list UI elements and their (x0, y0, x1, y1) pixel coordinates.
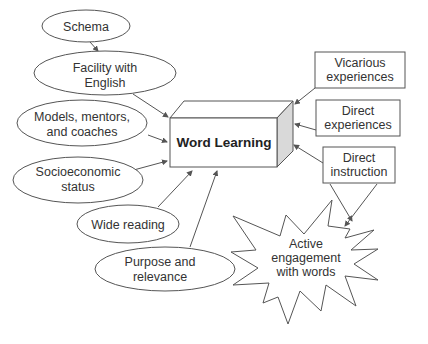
svg-text:Schema: Schema (63, 20, 109, 34)
svg-text:Direct: Direct (343, 151, 376, 165)
svg-text:with words: with words (275, 265, 335, 279)
factor-models-mentors-coaches: Models, mentors, and coaches (17, 100, 147, 146)
svg-text:status: status (61, 180, 94, 194)
svg-text:engagement: engagement (271, 251, 341, 265)
factor-purpose-and-relevance: Purpose and relevance (95, 247, 235, 291)
svg-text:and coaches: and coaches (47, 125, 118, 139)
svg-text:English: English (85, 76, 126, 90)
svg-text:experiences: experiences (326, 70, 393, 84)
svg-text:Facility with: Facility with (73, 61, 138, 75)
factor-schema: Schema (42, 10, 130, 42)
svg-text:Wide reading: Wide reading (91, 218, 165, 232)
factor-vicarious-experiences: Vicarious experiences (315, 52, 405, 88)
center-label: Word Learning (176, 135, 271, 150)
word-learning-diagram: Word Learning Schema Facility with Engli… (0, 0, 428, 344)
factor-direct-experiences: Direct experiences (316, 100, 400, 136)
svg-text:experiences: experiences (324, 118, 391, 132)
svg-text:Vicarious: Vicarious (334, 56, 385, 70)
svg-text:Active: Active (289, 237, 323, 251)
factor-facility-with-english: Facility with English (34, 51, 176, 95)
active-engagement-starburst: Active engagement with words (231, 200, 378, 324)
factor-wide-reading: Wide reading (77, 205, 179, 243)
factor-socioeconomic-status: Socioeconomic status (13, 157, 143, 203)
svg-text:relevance: relevance (133, 270, 187, 284)
svg-text:instruction: instruction (331, 165, 388, 179)
svg-text:Models, mentors,: Models, mentors, (34, 110, 130, 124)
factor-direct-instruction: Direct instruction (323, 147, 395, 183)
svg-text:Direct: Direct (342, 104, 375, 118)
word-learning-box: Word Learning (170, 101, 293, 167)
svg-text:Purpose and: Purpose and (125, 255, 196, 269)
svg-text:Socioeconomic: Socioeconomic (36, 165, 121, 179)
